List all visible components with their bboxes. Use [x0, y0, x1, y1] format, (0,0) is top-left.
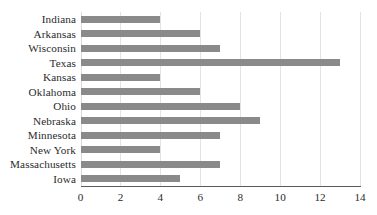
category-label: Wisconsin	[0, 41, 76, 56]
category-label: Indiana	[0, 12, 76, 27]
category-label: Nebraska	[0, 114, 76, 129]
bar	[81, 175, 181, 182]
bar	[81, 16, 161, 23]
bar-row	[81, 157, 361, 172]
bar-row	[81, 27, 361, 42]
bar-row	[81, 85, 361, 100]
category-label: Texas	[0, 56, 76, 71]
category-label: Massachusetts	[0, 157, 76, 172]
bar-row	[81, 70, 361, 85]
bar	[81, 74, 161, 81]
category-label: Kansas	[0, 70, 76, 85]
bar-row	[81, 99, 361, 114]
bar-row	[81, 56, 361, 71]
x-tick-label: 0	[78, 189, 84, 205]
bar-row	[81, 143, 361, 158]
bar-row	[81, 41, 361, 56]
category-label: Iowa	[0, 172, 76, 187]
x-tick-label: 4	[158, 189, 164, 205]
bar-chart: IndianaArkansasWisconsinTexasKansasOklah…	[0, 0, 377, 215]
x-tick-label: 14	[354, 189, 365, 205]
bar	[81, 132, 221, 139]
category-label: New York	[0, 143, 76, 158]
bar-row	[81, 12, 361, 27]
x-tick-label: 12	[314, 189, 325, 205]
bar	[81, 45, 221, 52]
category-label: Oklahoma	[0, 85, 76, 100]
category-label: Ohio	[0, 99, 76, 114]
x-tick-label: 2	[118, 189, 124, 205]
x-axis-line	[81, 186, 361, 187]
value-axis-labels: 02468101214	[0, 189, 377, 207]
category-label: Minnesota	[0, 128, 76, 143]
bar-series	[81, 12, 361, 186]
bar	[81, 103, 241, 110]
bar	[81, 146, 161, 153]
x-tick-label: 6	[197, 189, 203, 205]
bar	[81, 59, 341, 66]
bar-row	[81, 128, 361, 143]
category-label: Arkansas	[0, 27, 76, 42]
bar	[81, 88, 201, 95]
x-tick-label: 8	[237, 189, 243, 205]
bar	[81, 30, 201, 37]
bar	[81, 117, 261, 124]
bar-row	[81, 114, 361, 129]
bar-row	[81, 172, 361, 187]
x-tick-label: 10	[275, 189, 286, 205]
bar	[81, 161, 221, 168]
plot-area	[81, 12, 361, 186]
gridline-14	[360, 12, 361, 186]
category-axis-labels: IndianaArkansasWisconsinTexasKansasOklah…	[0, 12, 76, 186]
